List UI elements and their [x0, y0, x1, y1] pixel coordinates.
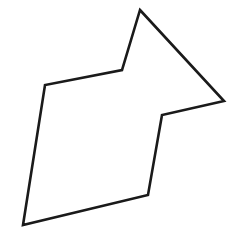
- shape-canvas: [0, 0, 237, 249]
- polygon-drawing-surface: [0, 0, 237, 249]
